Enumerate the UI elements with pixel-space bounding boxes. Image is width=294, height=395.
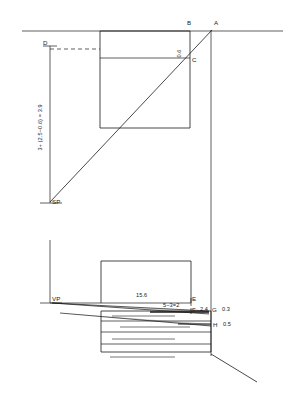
label-point-d: D bbox=[43, 40, 48, 46]
label-point-e: E bbox=[192, 296, 196, 302]
label-point-g: G bbox=[212, 307, 217, 313]
drawing-geometry bbox=[0, 0, 294, 395]
label-dimension-vertical-left: 3+ (2.5−0.6) = 3.9 bbox=[38, 104, 44, 150]
label-point-vp: VP bbox=[52, 296, 60, 302]
label-point-f: F bbox=[192, 307, 196, 313]
label-point-sp: SP bbox=[52, 199, 60, 205]
label-dimension-horizontal-mid: 15.6 bbox=[136, 293, 147, 299]
label-dimension-g-right: 0.3 bbox=[222, 307, 230, 313]
technical-drawing-canvas: A B C D 0.6 3+ (2.5−0.6) = 3.9 SP VP 15.… bbox=[0, 0, 294, 395]
label-point-a: A bbox=[214, 20, 218, 26]
label-dimension-h-right: 0.5 bbox=[223, 322, 231, 328]
lower-right-diagonal bbox=[211, 354, 257, 382]
label-point-c: C bbox=[192, 57, 197, 63]
label-point-b: B bbox=[187, 20, 191, 26]
sp-to-a-diagonal bbox=[50, 30, 212, 202]
label-dimension-subtraction: 5−3=2 bbox=[163, 303, 179, 309]
label-dimension-g-left: 2.4 bbox=[200, 307, 208, 313]
label-point-h: H bbox=[213, 322, 218, 328]
label-dimension-bc: 0.6 bbox=[177, 50, 183, 58]
